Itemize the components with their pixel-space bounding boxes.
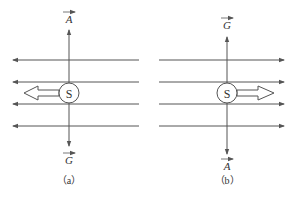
label-top-a: A [65,13,73,25]
caption-b: （b） [215,175,240,186]
label-top-b: G [223,19,231,31]
particle-symbol: S [224,87,231,101]
label-bottom-a: G [65,154,73,166]
particle-symbol: S [66,87,73,101]
caption-a: （a） [57,175,81,186]
diagram-canvas: S A G （a） S G A （b） [0,0,296,197]
hollow-arrow-right-icon [237,86,274,100]
figure-b: S G A （b） [159,18,284,186]
label-bottom-b: A [223,160,231,172]
figure-a: S A G （a） [13,12,139,186]
hollow-arrow-left-icon [24,86,59,100]
